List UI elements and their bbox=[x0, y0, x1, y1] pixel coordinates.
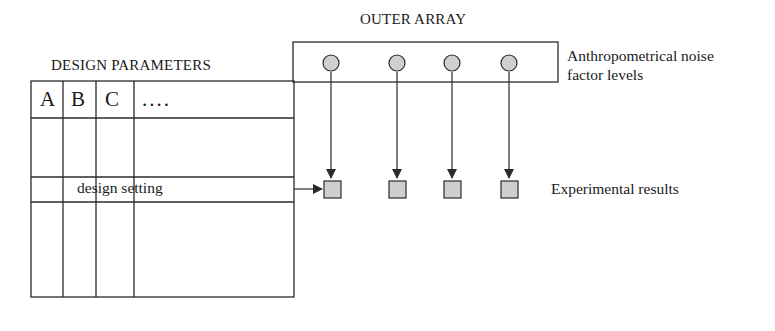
noise-level-circle bbox=[389, 55, 405, 71]
result-squares bbox=[324, 181, 518, 198]
noise-arrows bbox=[331, 72, 509, 178]
result-square bbox=[389, 181, 406, 198]
result-square bbox=[444, 181, 461, 198]
noise-level-circle bbox=[323, 55, 339, 71]
noise-label-line1: Anthropometrical noise bbox=[567, 47, 714, 65]
column-header-a: A bbox=[40, 87, 55, 112]
result-square bbox=[324, 181, 341, 198]
experimental-results-label: Experimental results bbox=[551, 180, 679, 198]
column-header-ellipsis: .... bbox=[142, 87, 171, 112]
column-header-c: C bbox=[105, 87, 119, 112]
outer-array-title: OUTER ARRAY bbox=[360, 11, 466, 28]
noise-level-circles bbox=[323, 55, 517, 71]
noise-level-circle bbox=[501, 55, 517, 71]
design-setting-label: design setting bbox=[77, 179, 163, 197]
noise-label-line2: factor levels bbox=[567, 66, 643, 84]
design-parameters-title: DESIGN PARAMETERS bbox=[51, 57, 211, 74]
column-header-b: B bbox=[71, 87, 85, 112]
noise-level-circle bbox=[444, 55, 460, 71]
result-square bbox=[501, 181, 518, 198]
